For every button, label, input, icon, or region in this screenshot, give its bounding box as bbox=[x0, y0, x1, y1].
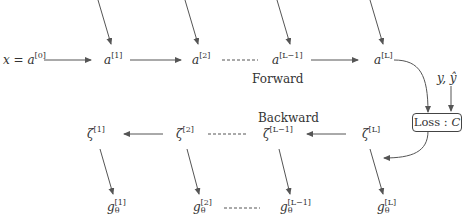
loss-box: Loss : C bbox=[412, 113, 462, 132]
node-gL-base: g bbox=[377, 200, 385, 214]
node-gLm1-sub: θ bbox=[288, 206, 293, 215]
node-zL-sup: [L] bbox=[369, 125, 381, 134]
arrow-zL-gL bbox=[370, 149, 383, 194]
arrow-zLm1-gLm1 bbox=[279, 149, 290, 194]
node-gLm1: gθ[L−1] bbox=[280, 201, 311, 213]
node-a0-base: x = a bbox=[3, 53, 35, 67]
node-gLm1-sup: [L−1] bbox=[288, 198, 311, 207]
input-arrow-a1 bbox=[98, 0, 111, 44]
arrow-z2-g2 bbox=[187, 149, 199, 194]
node-z2: ζ[2] bbox=[176, 128, 194, 140]
node-a0: x = a[0] bbox=[3, 54, 46, 66]
node-aL: a[L] bbox=[374, 54, 393, 66]
loss-label: Loss : bbox=[414, 115, 452, 129]
node-gL-sup: [L] bbox=[385, 198, 397, 207]
node-g1-sub: θ bbox=[115, 206, 120, 215]
arrow-loss-zL bbox=[384, 131, 428, 158]
node-g2-sup: [2] bbox=[201, 198, 212, 207]
node-gL-sub: θ bbox=[385, 206, 390, 215]
node-aL-sup: [L] bbox=[381, 51, 393, 60]
node-a2-sup: [2] bbox=[199, 51, 210, 60]
node-g2-sub: θ bbox=[201, 206, 206, 215]
targets-label: y, ŷ bbox=[437, 72, 457, 84]
node-zLm1-sup: [L−1] bbox=[270, 125, 293, 134]
input-arrow-a2 bbox=[185, 0, 198, 44]
arrow-aL-loss bbox=[394, 60, 428, 112]
node-a2: a[2] bbox=[192, 54, 211, 66]
forward-label: Forward bbox=[252, 73, 303, 85]
node-gL: gθ[L] bbox=[377, 201, 396, 213]
node-g2-base: g bbox=[193, 200, 201, 214]
node-a1-sup: [1] bbox=[111, 51, 122, 60]
node-g2: gθ[2] bbox=[193, 201, 212, 213]
input-arrow-aL bbox=[370, 0, 383, 44]
input-arrow-aLm1 bbox=[277, 0, 290, 44]
node-z1-sup: [1] bbox=[94, 125, 105, 134]
node-g1: gθ[1] bbox=[107, 201, 126, 213]
node-a0-sup: [0] bbox=[35, 51, 46, 60]
arrow-z1-g1 bbox=[100, 149, 113, 194]
targets-text: y, ŷ bbox=[437, 71, 457, 85]
node-z1: ζ[1] bbox=[87, 128, 105, 140]
node-z2-sup: [2] bbox=[183, 125, 194, 134]
node-aLm1-sup: [L−1] bbox=[279, 51, 302, 60]
node-zLm1: ζ[L−1] bbox=[263, 128, 293, 140]
diagram-edges bbox=[0, 0, 465, 221]
node-zL: ζ[L] bbox=[362, 128, 380, 140]
node-gLm1-base: g bbox=[280, 200, 288, 214]
loss-var: C bbox=[451, 115, 460, 129]
node-aLm1: a[L−1] bbox=[272, 54, 303, 66]
node-a1: a[1] bbox=[104, 54, 123, 66]
backward-label: Backward bbox=[258, 112, 319, 124]
node-g1-base: g bbox=[107, 200, 115, 214]
node-g1-sup: [1] bbox=[115, 198, 126, 207]
